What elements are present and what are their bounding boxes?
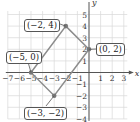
point-label-0-2: (0, 2) xyxy=(96,43,125,56)
x-tick-label: −5 xyxy=(25,74,36,83)
x-tick-label: 2 xyxy=(110,74,115,83)
y-tick-label: 4 xyxy=(82,22,87,31)
y-tick-label: 3 xyxy=(82,34,87,43)
x-tick-label: 1 xyxy=(98,74,103,83)
leader-line xyxy=(46,96,54,106)
y-tick-label: −3 xyxy=(76,103,87,112)
x-axis-arrow-icon xyxy=(129,71,134,75)
point-label-neg2-4: (−2, 4) xyxy=(24,19,60,32)
x-axis-label: x xyxy=(135,69,140,78)
y-tick-label: −1 xyxy=(76,80,87,89)
y-axis-label: y xyxy=(91,0,97,7)
y-tick-label: −4 xyxy=(76,115,87,122)
data-point xyxy=(64,24,69,29)
y-tick-label: −2 xyxy=(76,92,87,101)
x-tick-label: −6 xyxy=(14,74,25,83)
x-tick-label: −3 xyxy=(49,74,60,83)
y-tick-label: 5 xyxy=(82,11,87,20)
x-tick-label: 3 xyxy=(121,74,126,83)
point-label-neg3-neg2: (−3, −2) xyxy=(24,107,67,120)
point-label-neg5-0: (−5, 0) xyxy=(6,51,42,64)
x-tick-label: −7 xyxy=(2,74,13,83)
